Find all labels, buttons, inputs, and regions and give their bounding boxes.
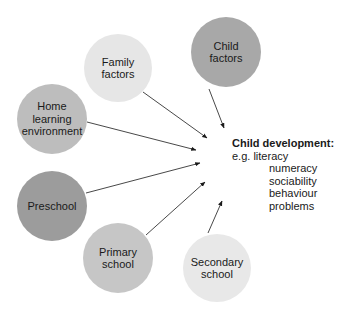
outcome-item: behaviour problems — [232, 187, 342, 212]
arrow-family-factors — [143, 92, 207, 138]
node-label: Child factors — [209, 40, 242, 65]
outcome-title: Child development: — [232, 137, 342, 150]
node-label: Secondary school — [191, 256, 244, 281]
node-label: Preschool — [28, 200, 77, 213]
node-label: Primary school — [99, 246, 137, 271]
node-label: Home learning environment — [22, 100, 83, 138]
outcome-item: numeracy — [232, 162, 342, 175]
node-preschool: Preschool — [17, 171, 87, 241]
node-family-factors: Family factors — [84, 34, 152, 102]
node-secondary-school: Secondary school — [183, 234, 251, 302]
arrow-secondary-school — [208, 201, 222, 233]
outcome-example-first: e.g. literacy — [232, 150, 342, 163]
arrow-preschool — [86, 163, 200, 193]
arrow-child-factors — [209, 89, 224, 128]
arrow-home-learning-environment — [87, 122, 196, 150]
outcome-child-development: Child development: e.g. literacy numerac… — [232, 137, 342, 212]
node-child-factors: Child factors — [191, 17, 261, 87]
node-label: Family factors — [101, 56, 134, 81]
arrow-primary-school — [146, 182, 205, 235]
node-home-learning-environment: Home learning environment — [17, 84, 87, 154]
node-primary-school: Primary school — [83, 223, 153, 293]
outcome-item: sociability — [232, 175, 342, 188]
